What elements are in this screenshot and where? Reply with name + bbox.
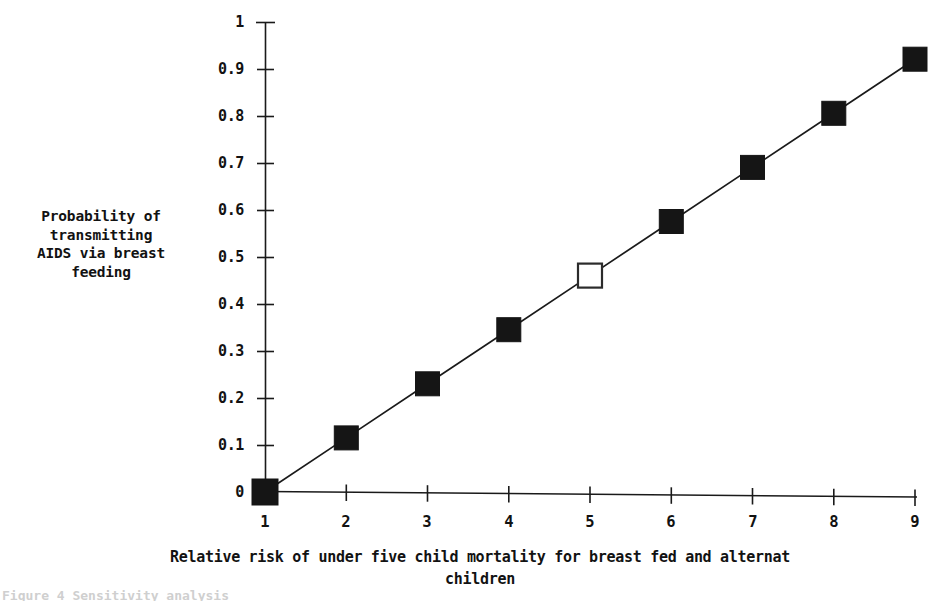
x-axis-title: Relative risk of under five child mortal…: [70, 546, 890, 590]
x-axis-title-line-2: children: [70, 568, 890, 590]
plot-area: [0, 0, 941, 602]
data-point-marker-6: [659, 210, 683, 234]
x-axis-title-line-1: Relative risk of under five child mortal…: [70, 546, 890, 568]
data-markers: [252, 47, 927, 505]
data-point-marker-2: [334, 426, 358, 450]
data-point-marker-4: [497, 318, 521, 342]
data-point-marker-7: [741, 155, 765, 179]
x-axis-line: [265, 492, 917, 498]
data-point-marker-5-open: [578, 264, 602, 288]
chart-figure: Probability of transmitting AIDS via bre…: [0, 0, 941, 602]
data-point-marker-8: [822, 101, 846, 125]
data-point-marker-3: [416, 372, 440, 396]
data-point-marker-9: [903, 47, 927, 71]
data-point-marker-1: [252, 479, 278, 505]
caption-fragment: Figure 4 Sensitivity analysis: [2, 590, 302, 601]
